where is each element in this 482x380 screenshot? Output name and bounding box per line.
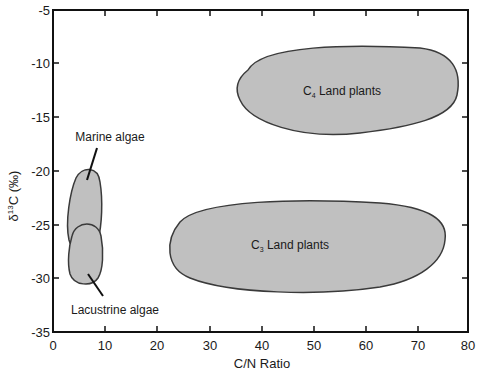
region-lacustrine-algae	[69, 224, 103, 284]
marine-algae-label: Marine algae	[75, 130, 145, 144]
svg-text:40: 40	[255, 338, 269, 353]
svg-text:70: 70	[411, 338, 425, 353]
x-axis-title: C/N Ratio	[234, 356, 290, 371]
svg-text:10: 10	[98, 338, 112, 353]
svg-text:50: 50	[307, 338, 321, 353]
svg-text:80: 80	[461, 338, 475, 353]
svg-text:0: 0	[49, 338, 56, 353]
svg-text:20: 20	[150, 338, 164, 353]
c3-label: C3 Land plants	[251, 238, 329, 253]
svg-text:30: 30	[203, 338, 217, 353]
lacustrine-algae-label: Lacustrine algae	[71, 303, 159, 317]
svg-text:-10: -10	[31, 56, 50, 71]
chart-svg: C4 Land plants C3 Land plants Marine alg…	[0, 0, 482, 380]
region-c3-land-plants: C3 Land plants	[170, 201, 446, 293]
svg-text:-30: -30	[31, 271, 50, 286]
svg-text:-20: -20	[31, 164, 50, 179]
svg-text:60: 60	[359, 338, 373, 353]
svg-text:-15: -15	[31, 110, 50, 125]
y-tick-labels: -5 -10 -15 -20 -25 -30 -35	[31, 3, 50, 340]
y-axis-title: δ13C (‰)	[6, 171, 21, 222]
c4-label: C4 Land plants	[303, 84, 381, 99]
svg-text:-25: -25	[31, 218, 50, 233]
chart-container: C4 Land plants C3 Land plants Marine alg…	[0, 0, 482, 380]
region-c4-land-plants: C4 Land plants	[237, 46, 458, 134]
svg-text:-35: -35	[31, 325, 50, 340]
x-tick-labels: 0 10 20 30 40 50 60 70 80	[49, 338, 475, 353]
svg-text:-5: -5	[38, 3, 50, 18]
